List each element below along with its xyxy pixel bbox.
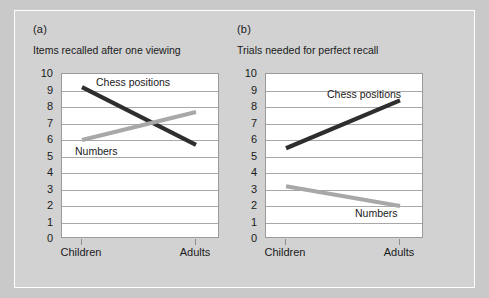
panel-b-ytick-5: 5 [237,150,257,162]
panel-a-ytick-3: 3 [33,183,53,195]
panel-b-line-chess [286,100,400,148]
panel-a-xtick-children-mark [81,239,82,245]
panel-a-ytick-0: 0 [33,232,53,244]
panel-a-title: Items recalled after one viewing [33,44,181,56]
panel-a-xtick-adults-mark [195,239,196,245]
panel-b-ytick-2: 2 [237,199,257,211]
panel-b-xtick-children-mark [285,239,286,245]
panel-b-ytick-3: 3 [237,183,257,195]
panel-a-ytick-5: 5 [33,150,53,162]
panel-a-ytick-6: 6 [33,133,53,145]
panel-b-xtick-children: Children [265,246,306,258]
panel-a-xtick-adults: Adults [180,246,211,258]
panel-a-tag: (a) [33,23,47,35]
panel-a-ytick-4: 4 [33,166,53,178]
panel-b-title: Trials needed for perfect recall [237,44,378,56]
panel-b-line-numbers [286,186,400,206]
panel-b-label-chess: Chess positions [327,88,401,100]
panel-b: (b) Trials needed for perfect recall 10 … [237,11,467,289]
panel-b-ytick-9: 9 [237,84,257,96]
panel-b-tag: (b) [237,23,251,35]
panel-b-ytick-10: 10 [237,67,257,79]
panel-b-xtick-adults-mark [399,239,400,245]
panel-a-ytick-2: 2 [33,199,53,211]
panel-b-ytick-8: 8 [237,100,257,112]
panel-b-label-numbers: Numbers [355,207,398,219]
panel-a-label-numbers: Numbers [75,145,118,157]
panel-b-ytick-0: 0 [237,232,257,244]
panel-b-ytick-4: 4 [237,166,257,178]
panel-a-ytick-7: 7 [33,117,53,129]
panel-a-xtick-children: Children [61,246,102,258]
panel-a-ytick-10: 10 [33,67,53,79]
panel-b-ytick-6: 6 [237,133,257,145]
panel-b-xtick-adults: Adults [384,246,415,258]
panel-a-label-chess: Chess positions [96,76,170,88]
panel-a-ytick-1: 1 [33,216,53,228]
figure-container: (a) Items recalled after one viewing 10 … [14,10,475,288]
panel-b-ytick-1: 1 [237,216,257,228]
panel-a: (a) Items recalled after one viewing 10 … [33,11,243,289]
panel-a-ytick-8: 8 [33,100,53,112]
panel-b-ytick-7: 7 [237,117,257,129]
panel-a-ytick-9: 9 [33,84,53,96]
